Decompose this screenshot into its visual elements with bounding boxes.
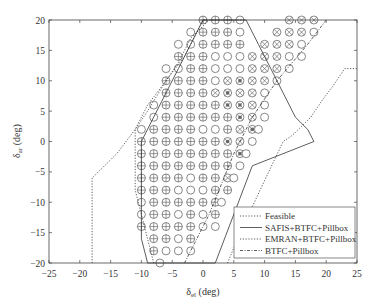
marker-cross [261,77,269,85]
marker-circle [174,247,182,255]
marker-plus [150,174,158,182]
marker-dot [236,113,244,121]
marker-plus [162,174,170,182]
y-tick-label: −5 [35,167,45,177]
x-tick-label: 0 [201,269,206,279]
marker-plus [224,40,232,48]
marker-plus [199,40,207,48]
marker-plus [162,186,170,194]
marker-dot [224,89,232,97]
marker-circle [187,247,195,255]
marker-plus [199,65,207,73]
marker-plus [162,198,170,206]
marker-plus [150,198,158,206]
legend-label: Feasible [265,211,295,221]
x-tick-label: −5 [167,269,177,279]
legend-label: BTFC+Pillbox [265,246,319,256]
marker-plus [150,150,158,158]
legend: FeasibleSAFIS+BTFC+PillboxEMRAN+BTFC+Pil… [234,207,357,258]
marker-plus [187,52,195,60]
marker-plus [162,223,170,231]
marker-circle [242,150,250,158]
marker-plus [187,77,195,85]
marker-circle [217,198,225,206]
marker-plus [174,125,182,133]
marker-circle [254,125,262,133]
marker-circle [199,223,207,231]
marker-cross [248,65,256,73]
marker-circle [150,101,158,109]
marker-circle [211,52,219,60]
marker-circle [298,52,306,60]
marker-plus [162,125,170,133]
marker-plus [150,223,158,231]
marker-plus [174,223,182,231]
marker-plus [150,186,158,194]
marker-cross [273,40,281,48]
marker-plus [162,210,170,218]
marker-plus [174,174,182,182]
marker-plus [224,125,232,133]
marker-cross [285,28,293,36]
marker-plus [187,150,195,158]
marker-circle [187,174,195,182]
marker-circle [199,125,207,133]
marker-plus [162,138,170,146]
y-tick-label: −10 [30,198,45,208]
marker-plus [150,210,158,218]
y-tick-label: 20 [36,16,46,26]
marker-dot [236,77,244,85]
marker-plus [150,235,158,243]
marker-plus [150,125,158,133]
marker-cross [298,28,306,36]
marker-circle [236,28,244,36]
marker-circle [224,65,232,73]
marker-circle [199,186,207,194]
legend-label: EMRAN+BTFC+Pillbox [265,234,357,244]
marker-plus [174,162,182,170]
marker-circle [174,186,182,194]
marker-plus [199,162,207,170]
marker-plus [187,210,195,218]
marker-plus [174,198,182,206]
marker-plus [187,65,195,73]
marker-cross [285,40,293,48]
marker-plus [224,28,232,36]
marker-circle [174,210,182,218]
marker-circle [236,52,244,60]
marker-plus [150,162,158,170]
marker-plus [174,52,182,60]
marker-cross [236,89,244,97]
marker-plus [174,89,182,97]
marker-circle [236,162,244,170]
marker-dot [224,138,232,146]
marker-circle [285,52,293,60]
marker-plus [199,101,207,109]
y-tick-label: 0 [40,137,45,147]
marker-plus [211,174,219,182]
marker-circle [298,40,306,48]
marker-plus [199,198,207,206]
marker-circle [261,101,269,109]
marker-circle [211,65,219,73]
y-tick-label: 10 [36,76,46,86]
marker-cross [248,52,256,60]
marker-plus [199,52,207,60]
marker-plus [150,138,158,146]
marker-plus [199,174,207,182]
marker-plus [211,28,219,36]
marker-cross [248,101,256,109]
marker-plus [187,101,195,109]
marker-plus [187,125,195,133]
marker-plus [211,162,219,170]
marker-circle [174,40,182,48]
x-tick-label: −25 [42,269,57,279]
marker-plus [187,162,195,170]
marker-circle [261,89,269,97]
marker-plus [199,77,207,85]
marker-cross [261,65,269,73]
marker-cross [248,89,256,97]
x-tick-label: 25 [352,269,362,279]
marker-cross [236,125,244,133]
marker-plus [199,89,207,97]
